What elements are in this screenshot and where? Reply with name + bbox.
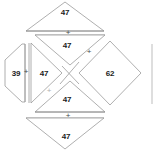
operator-upper-right: +	[87, 48, 92, 56]
cell-value-bottom-outer-triangle: 47	[62, 132, 71, 141]
cell-value-left-outer-hexagon: 39	[12, 69, 21, 78]
top-outer-triangle-shape	[26, 2, 104, 31]
operator-left: +	[24, 68, 29, 76]
cell-value-bottom-inner-triangle: 47	[63, 95, 72, 104]
operator-bottom: +	[66, 112, 71, 120]
cell-value-top-outer-triangle: 47	[61, 8, 70, 17]
puzzle-shapes-svg	[0, 0, 156, 152]
cell-value-right-diamond: 62	[106, 69, 115, 78]
operator-lower-left: +	[47, 87, 52, 95]
geometry-puzzle-diagram: 47 47 39 47 62 47 47 + + + + +	[0, 0, 156, 152]
cell-value-left-inner-triangle: 47	[40, 69, 49, 78]
cell-value-top-inner-triangle: 47	[63, 41, 72, 50]
operator-top: +	[66, 29, 71, 37]
